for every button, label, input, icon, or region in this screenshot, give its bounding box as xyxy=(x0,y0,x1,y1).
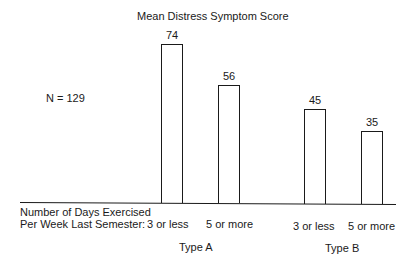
baseline xyxy=(20,202,396,205)
data-label-type-a-5-or-more: 56 xyxy=(214,70,244,82)
sample-size-annotation: N = 129 xyxy=(46,92,85,104)
group-label-type-a: Type A xyxy=(179,241,213,253)
bar-type-b-5-or-more xyxy=(361,131,383,204)
x-axis-label-line-2: Per Week Last Semester: xyxy=(20,218,145,230)
data-label-type-a-3-or-less: 74 xyxy=(157,29,187,41)
tick-label-type-b-5-or-more: 5 or more xyxy=(348,220,395,232)
data-label-type-b-5-or-more: 35 xyxy=(357,116,387,128)
chart-title-text: Mean Distress Symptom Score xyxy=(137,10,289,22)
tick-label-type-b-3-or-less: 3 or less xyxy=(293,220,335,232)
x-axis-label-line-1: Number of Days Exercised xyxy=(20,206,151,218)
bar-type-a-3-or-less xyxy=(161,44,183,203)
group-label-type-b: Type B xyxy=(325,242,359,254)
tick-label-type-a-3-or-less: 3 or less xyxy=(147,218,189,230)
bar-type-b-3-or-less xyxy=(304,109,326,204)
bar-type-a-5-or-more xyxy=(218,85,240,203)
data-label-type-b-3-or-less: 45 xyxy=(300,94,330,106)
tick-label-type-a-5-or-more: 5 or more xyxy=(206,218,253,230)
